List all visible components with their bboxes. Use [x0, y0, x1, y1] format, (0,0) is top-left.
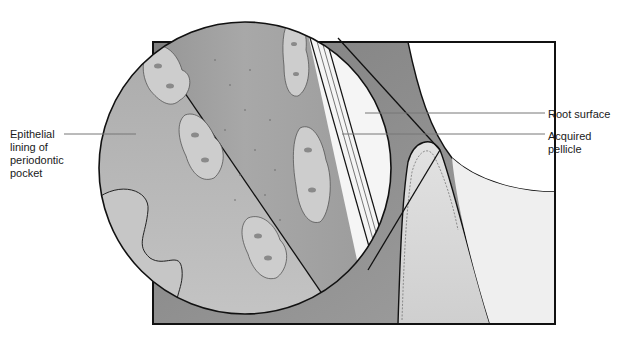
label-epithelial-line1: Epithelial — [10, 128, 90, 141]
label-epithelial-line4: pocket — [10, 167, 90, 180]
label-acquired-pellicle: Acquired pellicle — [548, 130, 591, 156]
label-epithelial-line3: periodontic — [10, 154, 90, 167]
periodontal-pocket-diagram — [0, 0, 630, 340]
label-epithelial-lining: Epithelial lining of periodontic pocket — [10, 128, 90, 180]
label-epithelial-line2: lining of — [10, 141, 90, 154]
label-pellicle-line2: pellicle — [548, 143, 591, 156]
label-root-surface: Root surface — [548, 108, 610, 121]
label-pellicle-line1: Acquired — [548, 130, 591, 143]
